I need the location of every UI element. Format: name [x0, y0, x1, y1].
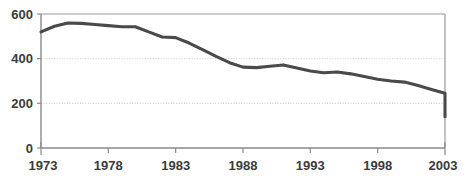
- tick-marks: [37, 14, 445, 155]
- line-chart: 0200400600 1973197819831988199319982003: [0, 0, 470, 185]
- x-tick-label-1973: 1973: [29, 158, 58, 173]
- y-tick-label-200: 200: [11, 96, 33, 111]
- y-tick-label-400: 400: [11, 51, 33, 66]
- y-tick-label-0: 0: [26, 141, 33, 156]
- y-tick-label-600: 600: [11, 7, 33, 22]
- y-tick-labels: 0200400600: [11, 7, 33, 156]
- x-tick-label-2003: 2003: [429, 158, 458, 173]
- x-tick-labels: 1973197819831988199319982003: [29, 158, 458, 173]
- x-tick-label-1988: 1988: [229, 158, 258, 173]
- x-tick-label-1978: 1978: [94, 158, 123, 173]
- x-tick-label-1983: 1983: [161, 158, 190, 173]
- series-line-1: [41, 23, 445, 117]
- x-tick-label-1993: 1993: [296, 158, 325, 173]
- data-series-group: [41, 23, 445, 117]
- chart-canvas: 0200400600 1973197819831988199319982003: [0, 0, 470, 185]
- x-tick-label-1998: 1998: [363, 158, 392, 173]
